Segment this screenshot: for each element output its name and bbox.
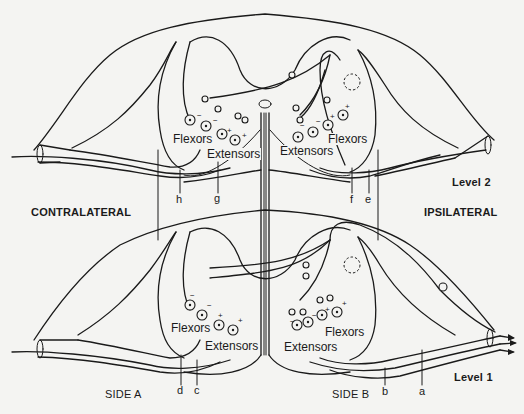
excitatory-sign: + bbox=[238, 317, 243, 325]
excitatory-sign: + bbox=[325, 306, 330, 314]
nerve-label-e: e bbox=[365, 194, 371, 205]
inhibitory-sign: − bbox=[316, 118, 321, 126]
level1-right-flexors-label: Flexors bbox=[324, 326, 365, 338]
inhibitory-sign: − bbox=[207, 302, 212, 310]
level1-left-flexors-label: Flexors bbox=[170, 322, 211, 334]
excitatory-sign: + bbox=[330, 113, 335, 121]
excitatory-sign: + bbox=[227, 127, 232, 135]
level2-left-extensors-label: Extensors bbox=[206, 148, 261, 160]
level2-right-flexors-label: Flexors bbox=[327, 133, 368, 145]
nerve-label-c: c bbox=[194, 385, 200, 396]
inhibitory-sign: − bbox=[312, 312, 317, 320]
side-b-label: SIDE B bbox=[332, 389, 369, 400]
spinal-reflex-diagram: Flexors Extensors Flexors Extensors Flex… bbox=[0, 0, 524, 414]
nerve-label-b: b bbox=[382, 386, 388, 397]
nerve-label-h: h bbox=[176, 194, 182, 205]
level2-label: Level 2 bbox=[452, 177, 491, 188]
level1-right-extensors-label: Extensors bbox=[283, 341, 338, 353]
nerve-label-g: g bbox=[214, 193, 220, 204]
central-canal bbox=[259, 100, 271, 355]
excitatory-sign: + bbox=[345, 103, 350, 111]
level2-right-extensors-label: Extensors bbox=[279, 145, 334, 157]
nerve-label-a: a bbox=[419, 386, 425, 397]
ipsilateral-label: IPSILATERAL bbox=[424, 207, 498, 218]
contralateral-label: CONTRALATERAL bbox=[31, 207, 131, 218]
level1-label: Level 1 bbox=[454, 372, 493, 383]
level1-left-extensors-label: Extensors bbox=[204, 340, 259, 352]
inhibitory-sign: − bbox=[300, 122, 305, 130]
excitatory-sign: + bbox=[218, 312, 223, 320]
side-a-label: SIDE A bbox=[105, 389, 142, 400]
inhibitory-sign: − bbox=[190, 292, 195, 300]
excitatory-sign: + bbox=[342, 300, 347, 308]
nerve-label-d: d bbox=[177, 385, 183, 396]
inhibitory-sign: − bbox=[197, 112, 202, 120]
nerve-label-f: f bbox=[350, 194, 353, 205]
inhibitory-sign: − bbox=[213, 117, 218, 125]
excitatory-sign: + bbox=[242, 132, 247, 140]
level2-left-flexors-label: Flexors bbox=[172, 133, 213, 145]
inhibitory-sign: − bbox=[290, 318, 295, 326]
